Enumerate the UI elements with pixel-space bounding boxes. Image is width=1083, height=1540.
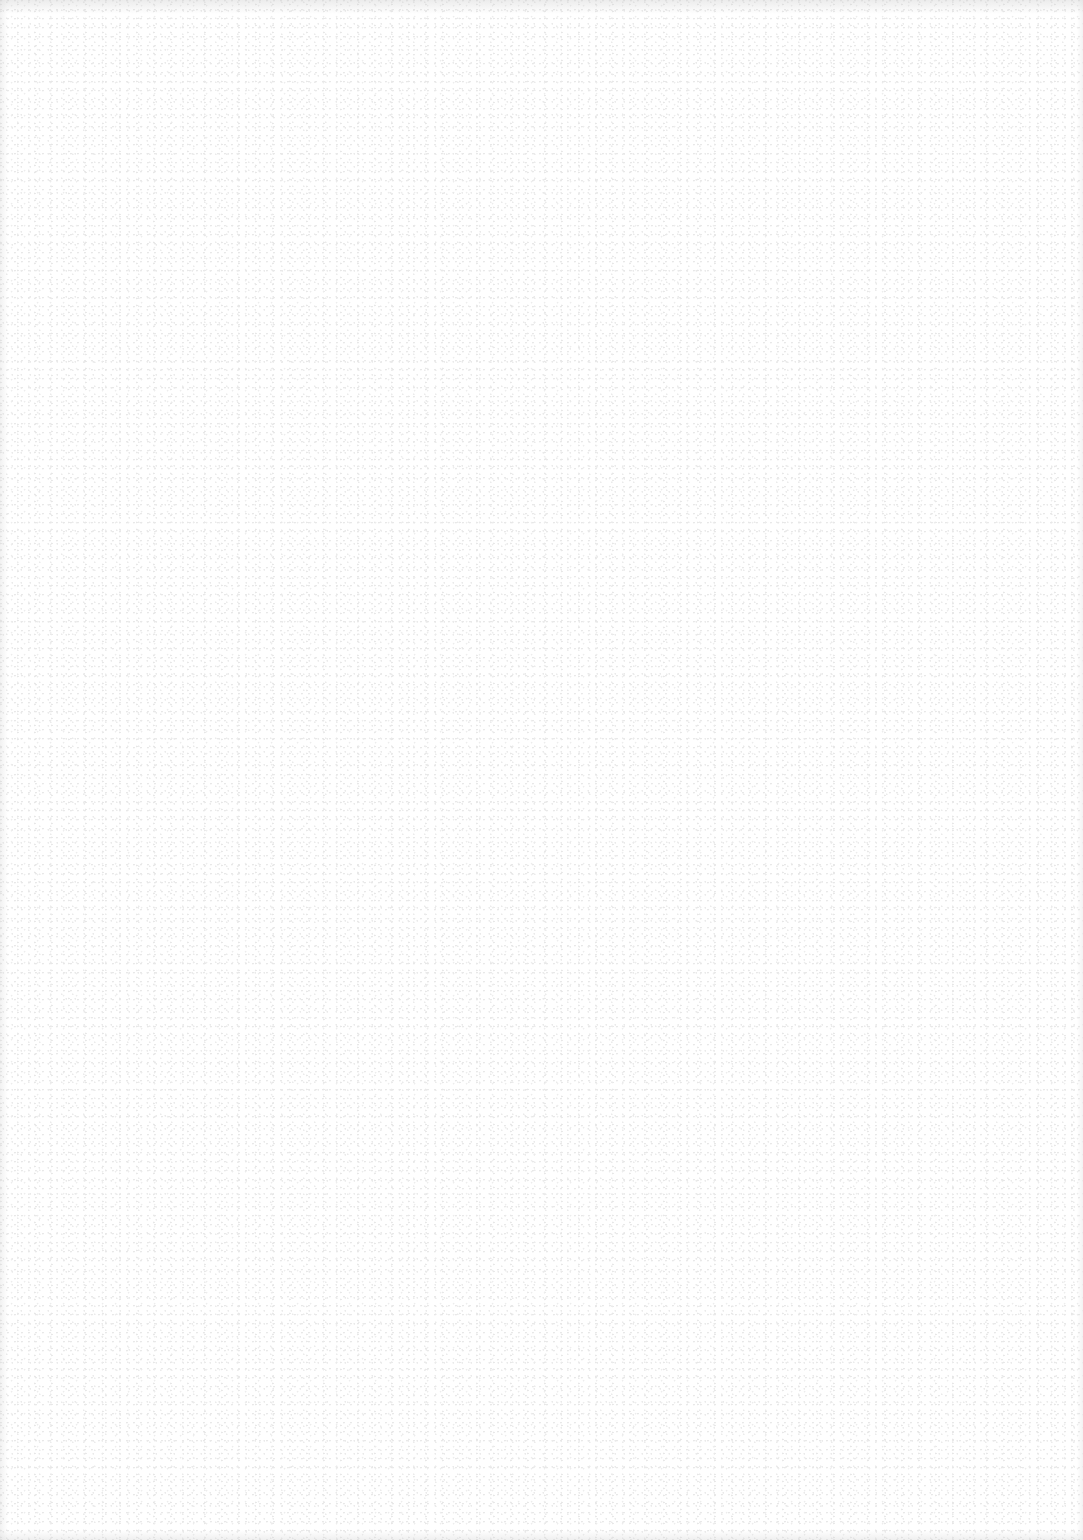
page-content-area — [0, 0, 1083, 1540]
blank-scanned-page — [0, 0, 1083, 1540]
